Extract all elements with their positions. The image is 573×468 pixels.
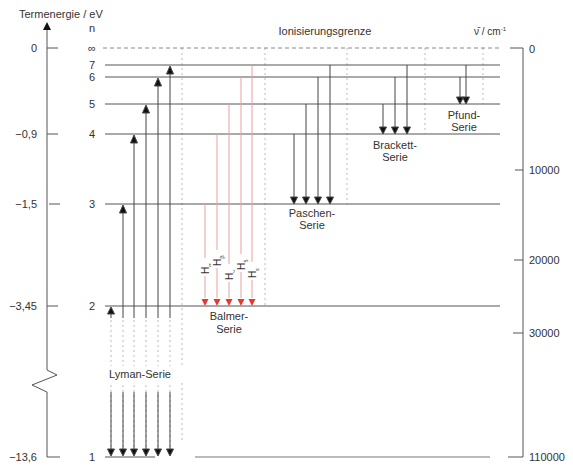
pfund-series-label-1: Pfund- — [448, 109, 481, 121]
arrow-down-icon — [463, 97, 470, 104]
left-energy-axis — [32, 22, 60, 457]
brackett-series — [380, 65, 411, 134]
brackett-series-label-2: Serie — [382, 151, 408, 163]
arrow-down-red-icon — [214, 299, 221, 306]
right-wavenumber-axis — [508, 48, 523, 457]
arrow-down-icon — [404, 127, 411, 134]
energy-tick-0: 0 — [31, 42, 37, 54]
arrow-down-icon — [315, 197, 322, 204]
energy-levels — [103, 48, 500, 457]
right-axis-label: ν̄ / cm-1 — [474, 26, 507, 37]
arrow-down-icon — [131, 449, 138, 456]
arrow-down-icon — [143, 449, 150, 456]
arrow-down-icon — [327, 197, 334, 204]
arrow-up-icon — [155, 78, 162, 86]
arrow-down-icon — [303, 197, 310, 204]
n-label-7: 7 — [89, 59, 95, 71]
balmer-series-label-1: Balmer- — [210, 310, 249, 322]
wavenumber-tick-4: 110000 — [529, 451, 565, 463]
arrow-down-red-icon — [238, 299, 245, 306]
arrow-down-red-icon — [226, 299, 233, 306]
arrow-down-icon — [291, 197, 298, 204]
n-label-2: 2 — [89, 300, 95, 312]
arrow-down-icon — [155, 449, 162, 456]
arrow-down-icon — [380, 127, 387, 134]
arrow-down-icon — [167, 449, 174, 456]
arrow-down-icon — [108, 449, 115, 456]
balmer-series-label-2: Serie — [216, 323, 242, 335]
lyman-series-label: Lyman-Serie — [109, 368, 171, 380]
wavenumber-tick-2: 20000 — [529, 254, 560, 266]
arrow-down-icon — [457, 97, 464, 104]
arrow-down-icon — [392, 127, 399, 134]
energy-tick-4: −13,6 — [9, 451, 37, 463]
arrow-up-icon — [120, 205, 127, 213]
energy-tick-3: −3,45 — [9, 300, 37, 312]
wavenumber-tick-1: 10000 — [529, 164, 560, 176]
dotted-guides — [111, 48, 483, 450]
paschen-series-label-2: Serie — [299, 219, 325, 231]
n-label-4: 4 — [89, 128, 95, 140]
n-axis-label: n — [89, 22, 95, 34]
n-label-3: 3 — [89, 198, 95, 210]
arrow-down-icon — [120, 449, 127, 456]
energy-level-diagram: Termenergie / eV 0 −0,9 −1,5 −3,45 −13,6… — [0, 0, 573, 468]
energy-tick-1: −0,9 — [15, 128, 37, 140]
wavenumber-tick-3: 30000 — [529, 327, 560, 339]
balmer-arrowheads — [202, 299, 256, 306]
arrow-up-icon — [143, 105, 150, 113]
arrow-up-icon — [167, 66, 174, 74]
left-axis-label: Termenergie / eV — [19, 8, 103, 20]
n-label-6: 6 — [89, 71, 95, 83]
pfund-series — [457, 65, 470, 104]
energy-tick-2: −1,5 — [15, 198, 37, 210]
lyman-series — [108, 66, 174, 456]
brackett-series-label-1: Brackett- — [373, 139, 417, 151]
arrow-up-icon — [131, 135, 138, 143]
axis-break-zigzag-icon — [32, 363, 57, 400]
pfund-series-label-2: Serie — [451, 121, 477, 133]
arrow-up-icon — [108, 307, 115, 314]
arrow-down-red-icon — [249, 299, 256, 306]
ionization-limit-label: Ionisierungsgrenze — [279, 25, 372, 37]
n-label-1: 1 — [89, 451, 95, 463]
axis-arrow-up-icon — [43, 22, 51, 30]
arrow-down-red-icon — [202, 299, 209, 306]
n-label-5: 5 — [89, 98, 95, 110]
wavenumber-tick-0: 0 — [529, 43, 535, 55]
paschen-series-label-1: Paschen- — [289, 207, 336, 219]
n-label-inf: ∞ — [88, 42, 96, 54]
